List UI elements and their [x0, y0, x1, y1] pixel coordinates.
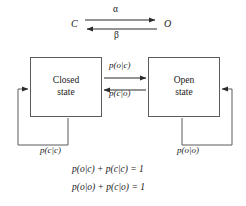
closed-state-box[interactable]: Closed state	[30, 57, 102, 117]
closed-state-label-line2: state	[57, 87, 74, 99]
transition-open-to-closed-label: p(c|o)	[109, 88, 130, 98]
transition-closed-to-open-label: p(o|c)	[109, 60, 130, 70]
open-state-label-line1: Open	[174, 75, 195, 87]
reaction-forward-rate-label: α	[113, 4, 118, 14]
kinetic-scheme-diagram: C O α β Closed state Open state p(o|c) p…	[0, 0, 246, 206]
reaction-left-species-label: C	[71, 18, 78, 29]
open-state-box[interactable]: Open state	[148, 57, 220, 117]
reaction-right-species-label: O	[164, 18, 171, 29]
closed-state-label-line1: Closed	[53, 75, 79, 87]
self-loop-closed-label: p(c|c)	[40, 145, 61, 155]
self-loop-open-label: p(o|o)	[177, 145, 199, 155]
normalization-equation-closed: p(o|c) + p(c|c) = 1	[72, 164, 144, 174]
normalization-equation-open: p(o|o) + p(c|o) = 1	[72, 182, 145, 192]
open-state-label-line2: state	[175, 87, 192, 99]
reaction-reverse-rate-label: β	[114, 30, 119, 40]
